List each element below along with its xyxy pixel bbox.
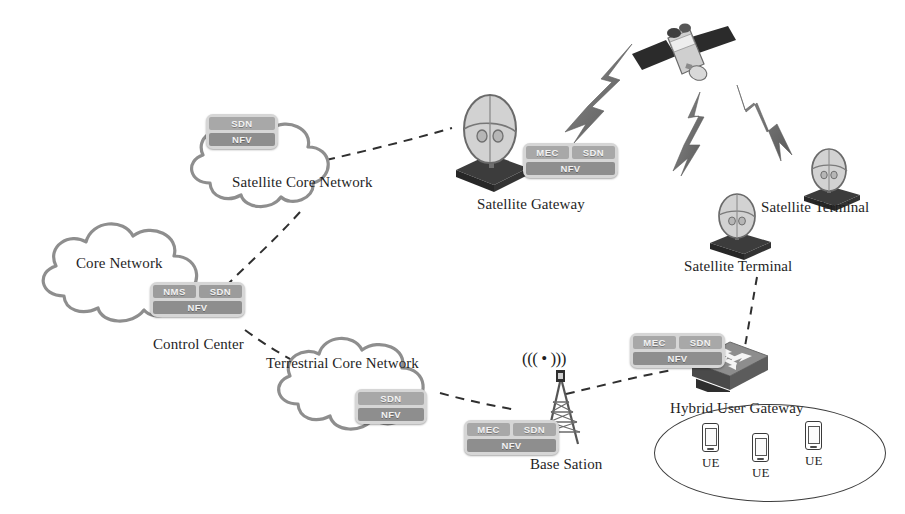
ue-2-label: UE: [752, 465, 770, 481]
smartphone-icon: [805, 421, 822, 450]
terrestrial-core-network-chip: SDN NFV: [355, 389, 427, 424]
network-architecture-diagram: Satellite Core Network SDN NFV Core Netw…: [0, 0, 905, 514]
chip-cell-mec: MEC: [467, 423, 510, 436]
satellite-core-network-label: Satellite Core Network: [232, 174, 373, 191]
ue-1-node: [702, 423, 719, 452]
hybrid-user-gateway-chip: MEC SDN NFV: [630, 333, 725, 368]
smartphone-icon: [752, 433, 769, 462]
base-station-chip: MEC SDN NFV: [464, 420, 559, 455]
satellite-icon: [628, 20, 738, 100]
chip-cell-sdn: SDN: [513, 423, 556, 436]
satellite-gateway-label: Satellite Gateway: [477, 196, 585, 213]
chip-cell-sdn: SDN: [209, 117, 275, 130]
chip-cell-nms: NMS: [153, 285, 196, 298]
control-center-label: Control Center: [153, 336, 244, 353]
satellite-core-network-chip: SDN NFV: [206, 114, 278, 149]
chip-cell-nfv: NFV: [209, 133, 275, 146]
chip-cell-sdn: SDN: [199, 285, 242, 298]
ue-group-ellipse: [654, 404, 886, 502]
terrestrial-core-network-label: Terrestrial Core Network: [266, 355, 419, 372]
chip-cell-nfv: NFV: [358, 408, 424, 421]
dashed-link-satcore-controlcenter: [228, 212, 300, 284]
satellite-terminal-left-node: [705, 193, 777, 259]
chip-cell-mec: MEC: [526, 146, 569, 159]
chip-cell-sdn: SDN: [679, 336, 722, 349]
chip-cell-sdn: SDN: [358, 392, 424, 405]
chip-cell-sdn: SDN: [572, 146, 615, 159]
satellite-node: [628, 20, 738, 104]
base-station-signal-glyph: ((( • ))): [522, 349, 566, 369]
ue-2-node: [752, 433, 769, 462]
chip-cell-nfv: NFV: [526, 162, 615, 175]
dashed-link-terrestrialcore-basestation: [440, 393, 516, 410]
satellite-terminal-right-label: Satellite Terminal: [761, 199, 869, 216]
base-station-label: Base Sation: [530, 456, 602, 473]
satellite-gateway-chip: MEC SDN NFV: [523, 143, 618, 178]
chip-cell-nfv: NFV: [633, 352, 722, 365]
core-network-label: Core Network: [76, 255, 163, 272]
wireless-link-satellite-terminal-left-bolt: [673, 92, 704, 176]
satellite-terminal-left-label: Satellite Terminal: [684, 258, 792, 275]
chip-cell-nfv: NFV: [153, 301, 242, 314]
ue-1-label: UE: [702, 455, 720, 471]
wireless-link-satellite-gateway-bolt: [565, 44, 632, 143]
chip-cell-mec: MEC: [633, 336, 676, 349]
wireless-link-satellite-terminal-right-bolt: [737, 85, 792, 161]
ue-3-label: UE: [805, 453, 823, 469]
chip-cell-nfv: NFV: [467, 439, 556, 452]
satellite-dish-icon: [705, 193, 777, 259]
control-center-chip: NMS SDN NFV: [150, 282, 245, 317]
smartphone-icon: [702, 423, 719, 452]
ue-3-node: [805, 421, 822, 450]
